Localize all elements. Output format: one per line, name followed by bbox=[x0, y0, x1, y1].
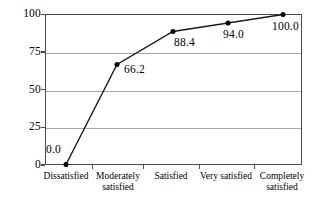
x-axis-label-line: Very satisfied bbox=[196, 171, 256, 182]
data-point-marker bbox=[171, 29, 176, 34]
data-label-dissatisfied: 0.0 bbox=[46, 144, 61, 156]
x-axis-label-completely-satisfied: Completely satisfied bbox=[252, 171, 312, 192]
x-axis-label-moderately-satisfied: Moderately satisfied bbox=[88, 171, 148, 192]
data-point-marker bbox=[281, 12, 286, 17]
x-axis-label-dissatisfied: Dissatisfied bbox=[36, 171, 96, 182]
x-axis-label-line: satisfied bbox=[88, 182, 148, 193]
x-tick-mark-2 bbox=[143, 165, 144, 169]
data-label-moderately-satisfied: 66.2 bbox=[124, 64, 145, 76]
data-label-very-satisfied: 94.0 bbox=[223, 29, 244, 41]
data-point-marker bbox=[64, 162, 69, 167]
data-point-marker bbox=[226, 21, 231, 26]
x-axis-label-line: Completely bbox=[252, 171, 312, 182]
x-tick-mark-1 bbox=[92, 165, 93, 169]
x-axis-label-line: Dissatisfied bbox=[36, 171, 96, 182]
x-axis-label-very-satisfied: Very satisfied bbox=[196, 171, 256, 182]
data-series bbox=[0, 0, 317, 200]
cumulative-satisfaction-line-chart: 100 75 50 25 0 0.0 66.2 88.4 94.0 100.0 … bbox=[0, 0, 317, 200]
x-tick-mark-4 bbox=[254, 165, 255, 169]
x-axis-label-satisfied: Satisfied bbox=[143, 171, 199, 182]
data-label-completely-satisfied: 100.0 bbox=[272, 21, 299, 33]
data-label-satisfied: 88.4 bbox=[174, 37, 195, 49]
x-axis-label-line: satisfied bbox=[252, 182, 312, 193]
x-axis-label-line: Satisfied bbox=[143, 171, 199, 182]
x-axis-label-line: Moderately bbox=[88, 171, 148, 182]
x-tick-mark-3 bbox=[199, 165, 200, 169]
data-point-marker bbox=[115, 62, 120, 67]
